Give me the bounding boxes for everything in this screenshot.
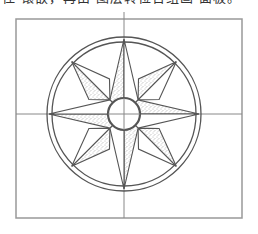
compass-rose-diagram (0, 0, 258, 234)
